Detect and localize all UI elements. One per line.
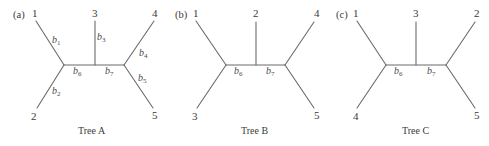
tree-a: (a) 1 2 3 4 5 b1 b2 b3 b4 b5 b6 b7 Tree … (13, 7, 158, 136)
caption-tree-c: Tree C (402, 125, 429, 136)
leaf-label-bottom-left: 2 (31, 110, 37, 122)
edge-leaf-top-right (124, 21, 154, 65)
edge-leaf-top-right (446, 22, 475, 65)
leaf-label-bottom-right: 5 (152, 109, 158, 121)
caption-tree-a: Tree A (78, 125, 106, 136)
panel-label-a: (a) (13, 9, 25, 21)
leaf-label-top-right: 4 (152, 7, 158, 19)
branch-label-b1: b1 (52, 34, 61, 47)
panel-label-c: (c) (336, 9, 348, 21)
leaf-label-top-left: 1 (353, 7, 359, 19)
edge-leaf-top-left (196, 21, 226, 65)
leaf-label-bottom-left: 4 (353, 110, 359, 122)
branch-label-b3: b3 (97, 31, 106, 44)
caption-tree-b: Tree B (241, 125, 268, 136)
branch-label-b7: b7 (427, 65, 436, 78)
leaf-label-bottom-left: 3 (192, 110, 198, 122)
branch-label-b6: b6 (73, 65, 82, 78)
edge-leaf-top-left (357, 21, 386, 65)
leaf-label-bottom-right: 5 (314, 109, 320, 121)
edge-leaf-bottom-right (446, 65, 475, 108)
leaf-label-top-center: 3 (413, 7, 419, 19)
branch-label-b6: b6 (394, 65, 403, 78)
branch-label-b7: b7 (105, 65, 114, 78)
edge-leaf-bottom-left (357, 65, 386, 108)
edge-leaf-top-right (285, 22, 314, 65)
leaf-label-top-center: 3 (92, 7, 98, 19)
tree-b: (b) 1 3 2 4 5 b6 b7 Tree B (175, 7, 320, 136)
leaf-label-top-right: 4 (314, 7, 320, 19)
leaf-label-top-center: 2 (253, 7, 259, 19)
edge-leaf-bottom-left (197, 65, 226, 108)
tree-c: (c) 1 4 3 2 5 b6 b7 Tree C (336, 7, 480, 136)
edge-leaf-bottom-left (37, 65, 64, 108)
leaf-label-top-right: 2 (474, 7, 480, 19)
branch-label-b5: b5 (138, 72, 147, 85)
leaf-label-bottom-right: 5 (474, 109, 480, 121)
phylogenetic-trees-figure: (a) 1 2 3 4 5 b1 b2 b3 b4 b5 b6 b7 Tree … (0, 0, 489, 146)
branch-label-b2: b2 (52, 85, 61, 98)
leaf-label-top-left: 1 (193, 7, 199, 19)
branch-label-b7: b7 (266, 65, 275, 78)
panel-label-b: (b) (175, 9, 188, 21)
branch-label-b4: b4 (139, 47, 148, 60)
branch-label-b6: b6 (234, 65, 243, 78)
leaf-label-top-left: 1 (32, 7, 38, 19)
edge-leaf-bottom-right (285, 65, 314, 108)
